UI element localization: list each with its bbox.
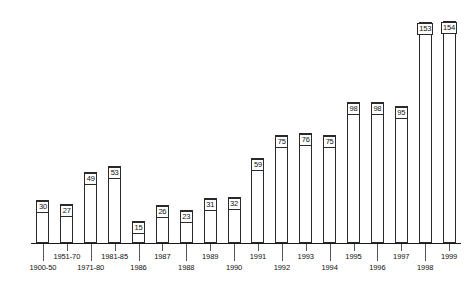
x-axis-tick <box>115 244 116 251</box>
x-axis-tick <box>67 244 68 251</box>
plot-area: 301900-50271951-70491971-80531981-851519… <box>0 0 471 285</box>
bar-value-label: 30 <box>36 201 49 213</box>
bar <box>323 135 336 243</box>
x-axis-line <box>31 243 461 244</box>
bar <box>419 22 432 243</box>
bar-value-label: 75 <box>323 136 336 148</box>
bar <box>443 21 456 243</box>
bar <box>371 102 384 243</box>
bar-value-label: 154 <box>441 22 457 34</box>
bar <box>347 102 360 243</box>
bar-value-label: 53 <box>108 167 121 179</box>
bar-value-label: 98 <box>347 103 360 115</box>
x-axis-label: 1999 <box>420 252 471 261</box>
bar-value-label: 31 <box>204 199 217 211</box>
x-axis-tick <box>258 244 259 251</box>
bar-value-label: 95 <box>395 107 408 119</box>
bar <box>275 135 288 243</box>
bar-value-label: 23 <box>180 211 193 223</box>
bar-value-label: 15 <box>132 222 145 234</box>
x-axis-tick <box>210 244 211 251</box>
bar-value-label: 153 <box>417 23 433 35</box>
x-axis-tick <box>354 244 355 251</box>
x-axis-tick <box>162 244 163 251</box>
bar <box>395 106 408 243</box>
x-axis-tick <box>306 244 307 251</box>
x-axis-tick <box>401 244 402 251</box>
x-axis-label: 1998 <box>396 263 454 272</box>
bar <box>299 133 312 243</box>
bar-value-label: 26 <box>156 206 169 218</box>
bar-value-label: 49 <box>84 173 97 185</box>
bar-chart: 301900-50271951-70491971-80531981-851519… <box>0 0 471 285</box>
bar-value-label: 32 <box>228 198 241 210</box>
bar-value-label: 98 <box>371 103 384 115</box>
bar-value-label: 59 <box>251 159 264 171</box>
x-axis-tick <box>449 244 450 251</box>
bar-value-label: 75 <box>275 136 288 148</box>
bar-value-label: 76 <box>299 134 312 146</box>
bar-value-label: 27 <box>60 205 73 217</box>
